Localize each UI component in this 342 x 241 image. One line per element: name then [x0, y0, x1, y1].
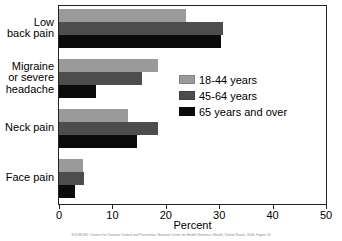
legend-item: 45-64 years [179, 88, 329, 103]
bar [59, 9, 186, 22]
bar [59, 59, 158, 72]
legend-swatch-icon [179, 91, 195, 100]
bar [59, 135, 137, 148]
bar [59, 159, 83, 172]
legend-label: 65 years and over [199, 106, 287, 118]
source-note: SOURCES: Centers for Disease Control and… [4, 233, 338, 238]
legend-item: 18-44 years [179, 72, 329, 87]
legend-swatch-icon [179, 107, 195, 116]
bar [59, 122, 158, 135]
bar [59, 22, 223, 35]
bar [59, 109, 128, 122]
legend-label: 18-44 years [199, 74, 257, 86]
legend-label: 45-64 years [199, 90, 257, 102]
category-label: Face pain [0, 172, 54, 184]
category-label: Migraine or severe headache [0, 61, 54, 96]
bar [59, 185, 75, 198]
category-label: Low back pain [0, 17, 54, 40]
bar-group [59, 9, 326, 48]
x-axis-title: Percent [58, 219, 327, 231]
chart-legend: 18-44 years45-64 years65 years and over [179, 72, 329, 120]
bar [59, 72, 142, 85]
bar [59, 35, 221, 48]
category-axis-labels: Low back painMigraine or severe headache… [0, 5, 58, 205]
bar [59, 85, 96, 98]
bar-group [59, 159, 326, 198]
legend-swatch-icon [179, 75, 195, 84]
legend-item: 65 years and over [179, 104, 329, 119]
bar-chart: Low back painMigraine or severe headache… [0, 0, 342, 241]
category-label: Neck pain [0, 122, 54, 134]
bar [59, 172, 84, 185]
